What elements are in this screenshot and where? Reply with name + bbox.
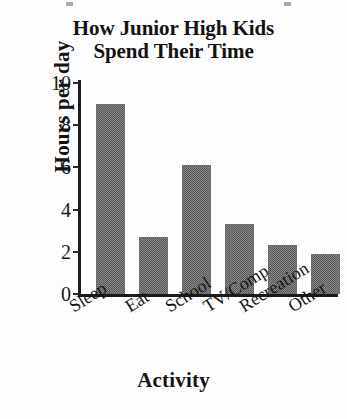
- bar-slot: [90, 83, 133, 294]
- y-tick-label: 10: [51, 73, 71, 93]
- bar-slot: [305, 83, 347, 294]
- y-tick-label: 2: [61, 242, 71, 262]
- x-axis-title: Activity: [0, 368, 347, 393]
- y-tick-label: 8: [61, 115, 71, 135]
- bar: [96, 104, 125, 294]
- y-tick-mark: [73, 209, 79, 211]
- y-tick-mark: [73, 166, 79, 168]
- bar: [139, 237, 168, 294]
- y-tick-label: 4: [61, 200, 71, 220]
- chart-figure: How Junior High Kids Spend Their Time Ho…: [0, 0, 347, 419]
- y-tick-mark: [73, 251, 79, 253]
- bar: [182, 165, 211, 294]
- y-tick-mark: [73, 124, 79, 126]
- clipped-text-artifact-left: [66, 2, 73, 6]
- y-tick-mark: [73, 82, 79, 84]
- y-tick-label: 6: [61, 157, 71, 177]
- bar-slot: [133, 83, 176, 294]
- clipped-text-artifact-right: [284, 2, 291, 6]
- x-tick-label: Sleep: [66, 279, 110, 316]
- bar-slot: [176, 83, 219, 294]
- bar-slot: [219, 83, 262, 294]
